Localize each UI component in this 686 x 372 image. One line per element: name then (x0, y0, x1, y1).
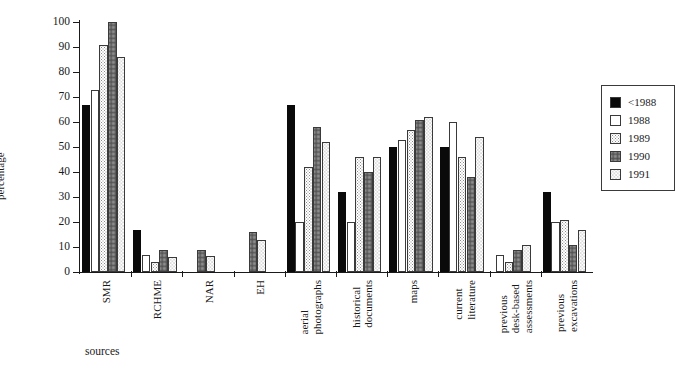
bar (206, 256, 214, 272)
y-tick-mark (73, 147, 80, 148)
x-category-label: currentliterature (452, 280, 477, 320)
y-tick-mark (73, 222, 80, 223)
bar (389, 147, 397, 272)
y-tick-label: 30 (0, 191, 70, 202)
legend-label: <1988 (628, 97, 656, 108)
chart-figure: 0102030405060708090100 percentage source… (0, 0, 686, 372)
y-tick-mark (73, 47, 80, 48)
y-tick-label-wrap: 70 (0, 91, 70, 102)
bar (496, 255, 504, 273)
y-tick-label-wrap: 20 (0, 216, 70, 227)
bar (398, 140, 406, 273)
bar (505, 262, 513, 272)
legend: <19881988198919901991 (601, 85, 675, 191)
y-tick-mark (73, 72, 80, 73)
y-tick-mark (73, 22, 80, 23)
x-category-label-line: photographs (311, 280, 324, 334)
bar-group (387, 22, 438, 272)
x-category-label-line: literature (465, 280, 478, 320)
bar (117, 57, 125, 272)
bar (415, 120, 423, 273)
x-category-label-line: documents (362, 280, 375, 328)
bar (569, 245, 577, 273)
x-category-label: previousexcavations (554, 280, 579, 332)
legend-entry: <1988 (602, 93, 674, 111)
legend-label: 1990 (628, 151, 650, 162)
y-tick-label-wrap: 80 (0, 66, 70, 77)
bar (522, 245, 530, 273)
y-tick-label-wrap: 90 (0, 41, 70, 52)
bar (560, 220, 568, 273)
bar (373, 157, 381, 272)
y-tick-label-wrap: 30 (0, 191, 70, 202)
x-category-label: historicaldocuments (350, 280, 375, 328)
x-category-label-line: maps (407, 280, 420, 303)
y-axis-title: percentage (0, 152, 6, 200)
x-category-label: previousdesk-basedassessments (497, 280, 535, 333)
x-axis-title: sources (85, 345, 120, 357)
bar (322, 142, 330, 272)
x-category-label-line: previous (497, 280, 510, 333)
bar (475, 137, 483, 272)
bar (440, 147, 448, 272)
bar (551, 222, 559, 272)
legend-entry: 1991 (602, 165, 674, 183)
bar (458, 157, 466, 272)
bar (424, 117, 432, 272)
y-tick-label: 10 (0, 241, 70, 252)
bar (347, 222, 355, 272)
bar-group (336, 22, 387, 272)
bar (168, 257, 176, 272)
y-tick-label: 80 (0, 66, 70, 77)
x-category-label-line: EH (254, 280, 267, 295)
y-tick-label-wrap: 60 (0, 116, 70, 127)
bar (338, 192, 346, 272)
y-tick-label: 50 (0, 141, 70, 152)
x-category-label-line: desk-based (509, 280, 522, 333)
legend-swatch (610, 115, 621, 126)
legend-label: 1988 (628, 115, 650, 126)
y-tick-label: 60 (0, 116, 70, 127)
legend-label: 1989 (628, 133, 650, 144)
bar (133, 230, 141, 273)
y-tick-label: 40 (0, 166, 70, 177)
y-tick-mark (73, 197, 80, 198)
bar (249, 232, 257, 272)
bar (513, 250, 521, 273)
x-category-label: SMR (100, 280, 113, 303)
bar (543, 192, 551, 272)
y-tick-label-wrap: 50 (0, 141, 70, 152)
bar (449, 122, 457, 272)
x-category-label-line: SMR (100, 280, 113, 303)
bar-group (490, 22, 541, 272)
x-category-label-line: current (452, 280, 465, 320)
x-category-label-line: excavations (567, 280, 580, 332)
y-tick-mark (73, 272, 80, 273)
legend-swatch (610, 97, 621, 108)
y-tick-label: 0 (0, 266, 70, 277)
bar (295, 222, 303, 272)
x-category-label-line: assessments (522, 280, 535, 333)
x-category-label: RCHME (151, 280, 164, 319)
bar (407, 130, 415, 273)
x-category-label-line: previous (554, 280, 567, 332)
legend-swatch (610, 133, 621, 144)
x-category-label-line: RCHME (151, 280, 164, 319)
bar (355, 157, 363, 272)
y-tick-label: 90 (0, 41, 70, 52)
bar (142, 255, 150, 273)
x-category-label: aerialphotographs (298, 280, 323, 334)
y-tick-mark (73, 172, 80, 173)
bar (99, 45, 107, 273)
legend-swatch (610, 169, 621, 180)
bar-group (182, 22, 233, 272)
y-tick-mark (73, 122, 80, 123)
bar-group (80, 22, 131, 272)
y-tick-mark (73, 97, 80, 98)
y-tick-label: 70 (0, 91, 70, 102)
bar (467, 177, 475, 272)
x-category-label-line: historical (350, 280, 363, 328)
x-category-label-line: aerial (298, 280, 311, 334)
plot-area (80, 22, 592, 272)
legend-swatch (610, 151, 621, 162)
